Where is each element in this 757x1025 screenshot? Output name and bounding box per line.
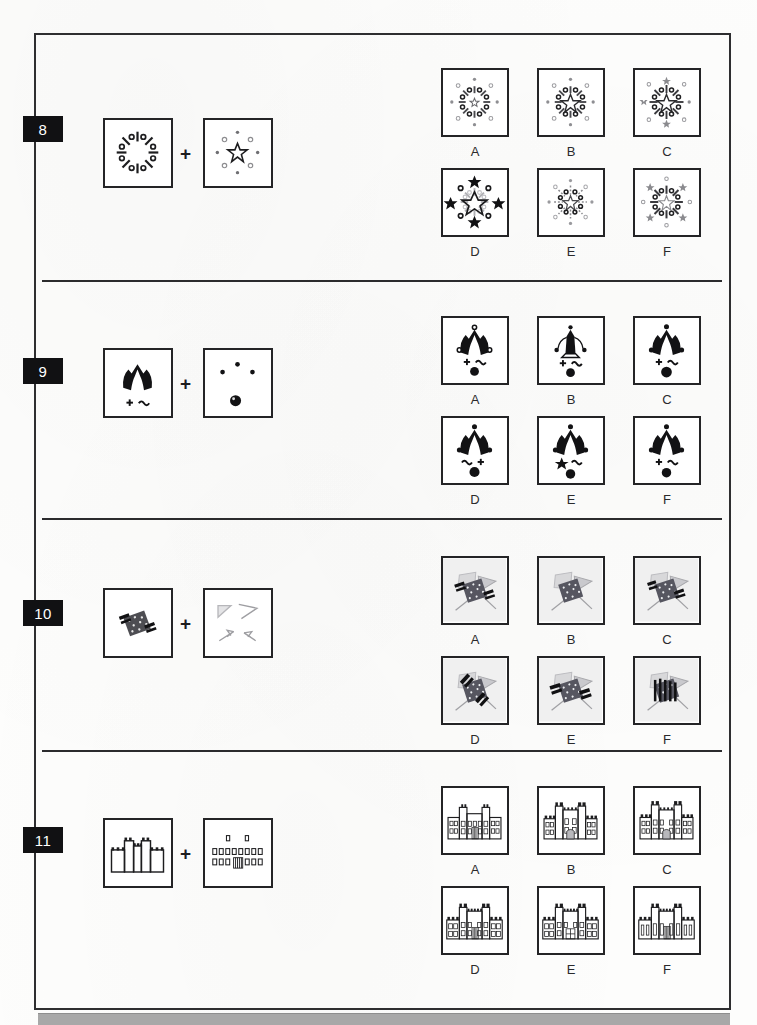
option-label-9-A: A [441, 392, 509, 407]
option-label-11-C: C [633, 862, 701, 877]
option-label-8-D: D [441, 244, 509, 259]
option-box-8-F[interactable] [633, 168, 701, 237]
option-label-10-C: C [633, 632, 701, 647]
option-label-11-E: E [537, 962, 605, 977]
option-box-11-D[interactable] [441, 886, 509, 955]
option-box-10-F[interactable] [633, 656, 701, 725]
option-label-8-E: E [537, 244, 605, 259]
option-label-10-E: E [537, 732, 605, 747]
option-box-9-C[interactable] [633, 316, 701, 385]
option-label-9-F: F [633, 492, 701, 507]
option-box-10-A[interactable] [441, 556, 509, 625]
option-label-11-F: F [633, 962, 701, 977]
question-number-badge-8: 8 [23, 116, 63, 142]
divider-after-10 [42, 750, 722, 752]
option-label-8-F: F [633, 244, 701, 259]
option-box-8-E[interactable] [537, 168, 605, 237]
stimulus-box-11-1 [103, 818, 173, 888]
bottom-gray-bar [38, 1013, 730, 1025]
option-box-8-D[interactable] [441, 168, 509, 237]
option-box-11-C[interactable] [633, 786, 701, 855]
stimulus-box-10-1 [103, 588, 173, 658]
option-label-8-A: A [441, 144, 509, 159]
option-box-8-A[interactable] [441, 68, 509, 137]
option-label-9-D: D [441, 492, 509, 507]
question-number-badge-10: 10 [23, 600, 63, 626]
question-number-badge-9: 9 [23, 358, 63, 384]
stimulus-box-8-1 [103, 118, 173, 188]
option-box-10-C[interactable] [633, 556, 701, 625]
option-label-10-B: B [537, 632, 605, 647]
option-box-8-B[interactable] [537, 68, 605, 137]
stimulus-box-11-2 [203, 818, 273, 888]
option-box-9-E[interactable] [537, 416, 605, 485]
option-label-8-C: C [633, 144, 701, 159]
option-box-8-C[interactable] [633, 68, 701, 137]
option-label-11-A: A [441, 862, 509, 877]
option-label-9-B: B [537, 392, 605, 407]
option-label-8-B: B [537, 144, 605, 159]
option-box-11-E[interactable] [537, 886, 605, 955]
plus-sign-11: + [180, 844, 191, 863]
question-number-badge-11: 11 [23, 827, 63, 853]
option-box-9-D[interactable] [441, 416, 509, 485]
stimulus-box-8-2 [203, 118, 273, 188]
plus-sign-10: + [180, 614, 191, 633]
option-box-9-F[interactable] [633, 416, 701, 485]
plus-sign-8: + [180, 144, 191, 163]
option-label-9-E: E [537, 492, 605, 507]
option-box-10-D[interactable] [441, 656, 509, 725]
plus-sign-9: + [180, 374, 191, 393]
option-box-10-E[interactable] [537, 656, 605, 725]
option-label-10-F: F [633, 732, 701, 747]
divider-after-9 [42, 518, 722, 520]
stimulus-box-9-2 [203, 348, 273, 418]
option-label-11-D: D [441, 962, 509, 977]
option-box-11-F[interactable] [633, 886, 701, 955]
divider-after-8 [42, 280, 722, 282]
option-label-9-C: C [633, 392, 701, 407]
option-box-10-B[interactable] [537, 556, 605, 625]
option-label-10-A: A [441, 632, 509, 647]
option-box-9-A[interactable] [441, 316, 509, 385]
option-label-11-B: B [537, 862, 605, 877]
stimulus-box-10-2 [203, 588, 273, 658]
option-box-11-B[interactable] [537, 786, 605, 855]
option-box-11-A[interactable] [441, 786, 509, 855]
stimulus-box-9-1 [103, 348, 173, 418]
option-label-10-D: D [441, 732, 509, 747]
option-box-9-B[interactable] [537, 316, 605, 385]
